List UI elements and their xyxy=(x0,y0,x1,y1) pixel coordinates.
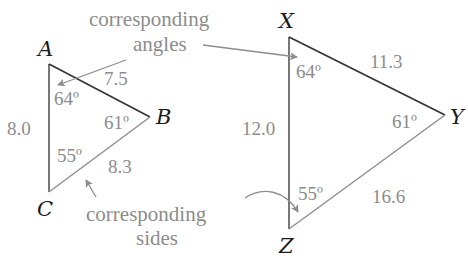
corresponding-angles-annotation: corresponding angles xyxy=(58,7,297,85)
vertex-x-label: X xyxy=(277,9,295,33)
side-ac-length: 8.0 xyxy=(7,118,31,139)
side-bc-arrow xyxy=(86,180,96,197)
corresponding-angles-line2: angles xyxy=(133,32,187,56)
side-yz-length: 16.6 xyxy=(372,186,405,207)
triangle-xyz: X Y Z 64º 61º 55º 11.3 12.0 16.6 xyxy=(242,9,466,258)
side-xz-length: 12.0 xyxy=(242,118,275,139)
corresponding-angles-line1: corresponding xyxy=(89,7,210,31)
angle-z-label: 55º xyxy=(298,183,323,204)
vertex-a-label: A xyxy=(36,37,53,61)
vertex-z-label: Z xyxy=(278,234,294,258)
side-yz-arrow xyxy=(245,191,298,212)
angle-x-label: 64º xyxy=(296,61,321,82)
side-ab-length: 7.5 xyxy=(104,68,128,89)
similar-triangles-diagram: A B C 64º 61º 55º 7.5 8.0 8.3 X Y Z 64º … xyxy=(0,0,468,262)
triangle-abc: A B C 64º 61º 55º 7.5 8.0 8.3 xyxy=(7,37,171,221)
side-yz xyxy=(289,115,445,229)
angle-b-label: 61º xyxy=(104,112,129,133)
side-bc-length: 8.3 xyxy=(108,156,132,177)
angle-a-label: 64º xyxy=(54,88,79,109)
corresponding-sides-line2: sides xyxy=(136,226,178,250)
angle-c-label: 55º xyxy=(57,145,82,166)
corresponding-sides-annotation: corresponding sides xyxy=(86,180,298,250)
vertex-c-label: C xyxy=(37,197,53,221)
vertex-b-label: B xyxy=(155,105,171,129)
side-xy-length: 11.3 xyxy=(370,51,403,72)
angle-x-arrow xyxy=(203,45,297,57)
corresponding-sides-line1: corresponding xyxy=(86,202,207,226)
vertex-y-label: Y xyxy=(450,105,466,129)
angle-y-label: 61º xyxy=(392,111,417,132)
